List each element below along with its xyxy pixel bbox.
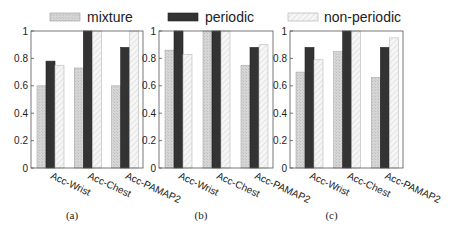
- bar-mixture-acc-pamap2: [112, 86, 121, 168]
- bar-periodic-acc-chest: [212, 31, 221, 168]
- y-tick-label: 0.4: [142, 108, 156, 119]
- bar-periodic-acc-wrist: [46, 61, 55, 168]
- bar-periodic-acc-pamap2: [121, 47, 130, 168]
- bar-mixture-acc-wrist: [165, 50, 174, 168]
- y-tick-label: 0: [150, 163, 156, 174]
- legend-label-non-periodic: non-periodic: [324, 9, 401, 25]
- y-tick-label: 0.6: [142, 80, 156, 91]
- legend-swatch-non-periodic: [288, 13, 318, 21]
- bar-non-periodic-acc-chest: [92, 31, 101, 168]
- x-tick-label: Acc-Wrist: [49, 170, 92, 198]
- panel-caption: (a): [66, 209, 79, 222]
- figure: mixture periodic non-periodic Acc-WristA…: [0, 0, 455, 236]
- panel-a: Acc-WristAcc-ChestAcc-PAMAP200.20.40.60.…: [14, 26, 183, 223]
- bar-mixture-acc-chest: [74, 68, 83, 168]
- x-tick-label: Acc-Wrist: [177, 170, 220, 198]
- y-tick-label: 0.8: [273, 53, 287, 64]
- y-tick-label: 0: [22, 163, 28, 174]
- y-tick-label: 1: [150, 26, 156, 37]
- y-tick-label: 0.2: [142, 135, 156, 146]
- bar-mixture-acc-chest: [334, 52, 343, 168]
- bar-periodic-acc-pamap2: [250, 47, 259, 168]
- x-tick-label: Acc-PAMAP2: [124, 170, 183, 205]
- bar-mixture-acc-chest: [203, 31, 212, 168]
- y-tick-label: 1: [281, 26, 287, 37]
- legend-label-periodic: periodic: [205, 9, 254, 25]
- x-tick-label: Acc-PAMAP2: [253, 170, 312, 205]
- panel-caption: (b): [195, 209, 208, 222]
- y-tick-label: 0.2: [273, 135, 287, 146]
- legend-item-periodic: periodic: [168, 9, 254, 25]
- legend-swatch-periodic: [168, 13, 198, 21]
- y-tick-label: 0.6: [14, 80, 28, 91]
- bar-mixture-acc-pamap2: [371, 78, 380, 168]
- legend-item-mixture: mixture: [50, 9, 133, 25]
- y-tick-label: 0.6: [273, 80, 287, 91]
- bar-non-periodic-acc-chest: [221, 31, 230, 168]
- x-tick-label: Acc-PAMAP2: [383, 170, 442, 205]
- bar-periodic-acc-pamap2: [380, 47, 389, 168]
- bar-periodic-acc-chest: [83, 31, 92, 168]
- y-tick-label: 0.8: [142, 53, 156, 64]
- bar-periodic-acc-wrist: [305, 47, 314, 168]
- x-tick-label: Acc-Wrist: [308, 170, 351, 198]
- bar-non-periodic-acc-wrist: [183, 54, 192, 168]
- y-tick-label: 0.4: [14, 108, 28, 119]
- legend-swatch-mixture: [50, 13, 80, 21]
- bar-mixture-acc-wrist: [296, 72, 305, 168]
- y-tick-label: 0.8: [14, 53, 28, 64]
- bar-non-periodic-acc-wrist: [314, 60, 323, 168]
- y-tick-label: 0.4: [273, 108, 287, 119]
- bar-periodic-acc-chest: [343, 31, 352, 168]
- bar-non-periodic-acc-wrist: [55, 65, 64, 168]
- legend-item-non-periodic: non-periodic: [288, 9, 401, 25]
- y-tick-label: 1: [22, 26, 28, 37]
- y-tick-label: 0: [281, 163, 287, 174]
- legend-label-mixture: mixture: [87, 9, 133, 25]
- legend: mixture periodic non-periodic: [50, 9, 401, 25]
- bar-mixture-acc-pamap2: [241, 65, 250, 168]
- panel-caption: (c): [325, 209, 338, 222]
- bar-non-periodic-acc-pamap2: [389, 38, 398, 168]
- bar-mixture-acc-wrist: [37, 86, 46, 168]
- bar-periodic-acc-wrist: [174, 31, 183, 168]
- bar-non-periodic-acc-pamap2: [130, 31, 139, 168]
- bar-non-periodic-acc-pamap2: [259, 45, 268, 168]
- y-tick-label: 0.2: [14, 135, 28, 146]
- bar-non-periodic-acc-chest: [352, 31, 361, 168]
